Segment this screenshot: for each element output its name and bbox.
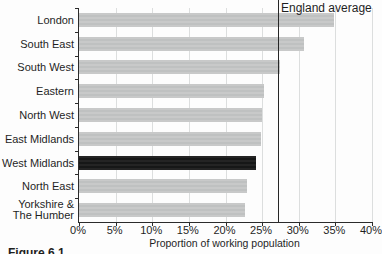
x-axis-tick-label: 0% [70, 224, 86, 236]
x-axis-tick-label: 25% [250, 224, 272, 236]
x-axis-tick-label: 35% [323, 224, 345, 236]
x-axis-tick-labels: 0%5%10%15%20%25%30%35%40% [78, 224, 371, 236]
category-label: East Midlands [0, 133, 74, 144]
x-axis-tick-label: 10% [140, 224, 162, 236]
category-label: North West [0, 109, 74, 120]
x-axis-tick-label: 5% [107, 224, 123, 236]
bar-row: West Midlands [79, 151, 372, 175]
category-label: South East [0, 38, 74, 49]
x-axis-tick-label: 15% [177, 224, 199, 236]
bar-row: North East [79, 174, 372, 198]
gridline [372, 8, 373, 222]
reference-line [278, 0, 279, 222]
bar [79, 203, 245, 217]
bar-row: North West [79, 103, 372, 127]
bar-row: Eastern [79, 79, 372, 103]
bar [79, 37, 304, 51]
category-label: South West [0, 62, 74, 73]
chart-canvas: LondonSouth EastSouth WestEasternNorth W… [0, 0, 382, 254]
category-label: London [0, 14, 74, 25]
bar-row: South East [79, 32, 372, 56]
bar [79, 132, 261, 146]
category-label: North East [0, 181, 74, 192]
x-axis-tick-label: 40% [360, 224, 382, 236]
bar-row: Yorkshire & The Humber [79, 198, 372, 222]
bar-row: South West [79, 56, 372, 80]
bar [79, 108, 262, 122]
bar [79, 156, 256, 170]
category-label: West Midlands [0, 157, 74, 168]
plot-area: LondonSouth EastSouth WestEasternNorth W… [78, 8, 372, 223]
x-axis-tick-label: 20% [213, 224, 235, 236]
england-average-label: England average [281, 1, 372, 15]
category-label: Eastern [0, 86, 74, 97]
x-axis-tick-label: 30% [287, 224, 309, 236]
bar [79, 60, 280, 74]
x-axis-title: Proportion of working population [78, 237, 371, 249]
figure-caption: Figure 6.1 [8, 246, 65, 254]
category-label: Yorkshire & The Humber [0, 199, 74, 221]
bar [79, 179, 247, 193]
bar-row: East Midlands [79, 127, 372, 151]
bar [79, 84, 264, 98]
